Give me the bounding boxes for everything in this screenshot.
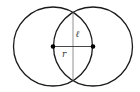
radius-label: r bbox=[62, 49, 67, 59]
right-center-point bbox=[91, 44, 96, 49]
two-circles-diagram: ℓ r bbox=[0, 0, 140, 92]
left-center-point bbox=[51, 44, 56, 49]
chord-label: ℓ bbox=[76, 29, 80, 39]
